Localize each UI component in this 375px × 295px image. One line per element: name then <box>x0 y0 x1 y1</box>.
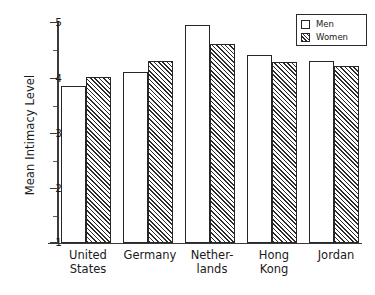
x-label-united-states: United States <box>57 249 119 276</box>
bar-chart: Mean Intimacy Level 5 4 3 2 1 United Sta… <box>0 0 375 295</box>
bar-united-states-men <box>61 86 86 243</box>
bar-jordan-men <box>309 61 334 243</box>
bar-hong-kong-men <box>247 55 272 243</box>
bar-germany-women <box>148 61 173 243</box>
bar-netherlands-women <box>210 44 235 243</box>
hatched-square-swatch-icon <box>301 33 310 42</box>
x-label-hong-kong: Hong Kong <box>243 249 305 276</box>
bar-netherlands-men <box>185 25 210 243</box>
legend-label-women: Women <box>316 32 348 42</box>
empty-square-swatch-icon <box>301 20 310 29</box>
x-label-germany: Germany <box>119 249 181 263</box>
legend-item-men: Men <box>301 18 366 30</box>
legend-label-men: Men <box>316 19 334 29</box>
plot-area <box>57 22 362 243</box>
x-label-jordan: Jordan <box>305 249 367 263</box>
bar-united-states-women <box>86 77 111 243</box>
bar-germany-men <box>123 72 148 243</box>
x-label-netherlands: Nether- lands <box>181 249 243 276</box>
bar-hong-kong-women <box>272 62 297 243</box>
legend: Men Women <box>296 14 367 46</box>
y-axis-title: Mean Intimacy Level <box>23 35 37 235</box>
legend-item-women: Women <box>301 31 366 43</box>
bar-jordan-women <box>334 66 359 243</box>
